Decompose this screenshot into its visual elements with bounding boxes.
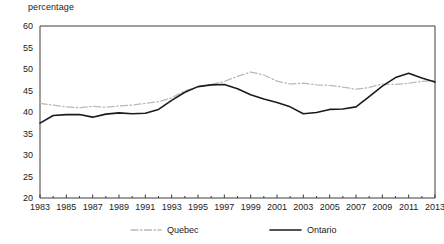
x-tick-label: 1989 (109, 202, 129, 212)
plot-area: 202530354045505560 198319851987198919911… (0, 0, 444, 244)
line-chart: percentage 202530354045505560 1983198519… (0, 0, 444, 244)
series-line-ontario (40, 73, 435, 123)
chart-legend: Quebec Ontario (131, 225, 337, 235)
y-tick-label: 30 (23, 150, 33, 160)
x-tick-label: 2005 (320, 202, 340, 212)
y-tick-label: 25 (23, 172, 33, 182)
x-tick-label: 1995 (188, 202, 208, 212)
x-tick-label: 2011 (399, 202, 418, 212)
x-tick-label: 1993 (162, 202, 182, 212)
x-tick-label: 2007 (346, 202, 366, 212)
x-tick-label: 1985 (56, 202, 76, 212)
y-tick-label: 40 (23, 107, 33, 117)
axis-tick-marks (40, 195, 435, 199)
y-tick-label: 60 (23, 21, 33, 31)
x-tick-label: 2009 (372, 202, 392, 212)
y-tick-label: 35 (23, 129, 33, 139)
x-tick-label: 1983 (30, 202, 50, 212)
y-tick-label: 50 (23, 64, 33, 74)
series-line-quebec (40, 72, 435, 108)
legend-label-ontario: Ontario (307, 225, 337, 235)
x-tick-label: 2001 (267, 202, 287, 212)
x-tick-label: 1991 (135, 202, 155, 212)
x-tick-label: 2013 (425, 202, 444, 212)
x-tick-label: 1999 (241, 202, 261, 212)
x-axis-tick-labels: 1983198519871989199119931995199719992001… (30, 202, 444, 212)
y-axis-tick-labels: 202530354045505560 (23, 21, 33, 203)
y-tick-label: 55 (23, 43, 33, 53)
y-tick-label: 45 (23, 86, 33, 96)
x-tick-label: 1987 (83, 202, 103, 212)
legend-label-quebec: Quebec (167, 225, 199, 235)
axis-frame (40, 26, 435, 198)
x-tick-label: 2003 (293, 202, 313, 212)
x-tick-label: 1997 (214, 202, 234, 212)
